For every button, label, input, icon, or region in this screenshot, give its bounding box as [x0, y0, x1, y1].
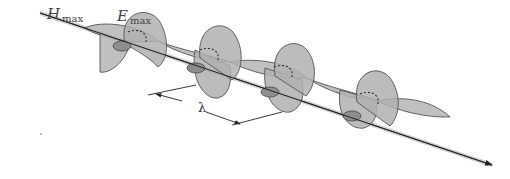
- stray-dot: [40, 133, 42, 135]
- axis-front: [40, 13, 492, 165]
- wavelength-label: λ: [198, 100, 206, 115]
- e-max-label: Emax: [116, 7, 151, 26]
- wave-figure: Hmax Emax λ: [0, 0, 510, 179]
- em-wave-diagram: Hmax Emax λ: [0, 0, 510, 179]
- h-max-label: Hmax: [46, 5, 84, 24]
